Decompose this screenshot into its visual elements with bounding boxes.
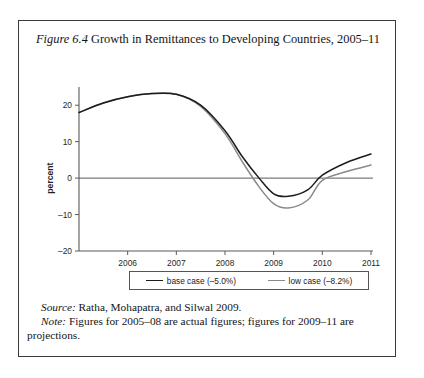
y-tick-label: –10	[58, 210, 72, 220]
figure-title: Figure 6.4 Growth in Remittances to Deve…	[36, 32, 380, 48]
x-tick-label: 2009	[264, 258, 283, 268]
figure-frame: Figure 6.4 Growth in Remittances to Deve…	[18, 20, 396, 357]
note-line-continued: projections.	[27, 328, 387, 342]
series-line-low-case	[79, 93, 371, 208]
figure-title-text: Growth in Remittances to Developing Coun…	[88, 32, 380, 46]
chart-legend: base case (–5.0%) low case (–8.2%)	[129, 271, 369, 290]
source-line: Source: Ratha, Mohapatra, and Silwal 200…	[27, 300, 387, 314]
legend-item-low-case: low case (–8.2%)	[268, 276, 353, 286]
legend-swatch-base-case	[146, 280, 163, 281]
y-tick-label: 10	[63, 137, 73, 147]
source-lead: Source:	[41, 301, 76, 313]
note-text: Figures for 2005–08 are actual figures; …	[66, 315, 354, 327]
note-line: Note: Figures for 2005–08 are actual fig…	[27, 314, 387, 328]
note-lead: Note:	[41, 315, 66, 327]
x-tick-label: 2008	[216, 258, 235, 268]
y-tick-label: 0	[67, 173, 72, 183]
remittances-line-chart: 20100–10–20200620072008200920102011perce…	[33, 79, 383, 279]
legend-label-base-case: base case (–5.0%)	[167, 276, 236, 286]
y-axis-title: percent	[45, 162, 55, 193]
x-tick-label: 2007	[167, 258, 186, 268]
figure-footnotes: Source: Ratha, Mohapatra, and Silwal 200…	[27, 300, 387, 343]
x-tick-label: 2011	[362, 258, 380, 268]
y-tick-label: –20	[58, 246, 72, 256]
legend-item-base-case: base case (–5.0%)	[146, 276, 236, 286]
legend-label-low-case: low case (–8.2%)	[289, 276, 353, 286]
source-text: Ratha, Mohapatra, and Silwal 2009.	[76, 301, 242, 313]
figure-number: Figure 6.4	[36, 32, 88, 46]
chart-plot-area: 20100–10–20200620072008200920102011perce…	[33, 79, 383, 279]
x-tick-label: 2006	[118, 258, 137, 268]
x-tick-label: 2010	[313, 258, 332, 268]
legend-swatch-low-case	[268, 280, 285, 281]
y-tick-label: 20	[63, 100, 73, 110]
series-line-base-case	[79, 93, 371, 197]
